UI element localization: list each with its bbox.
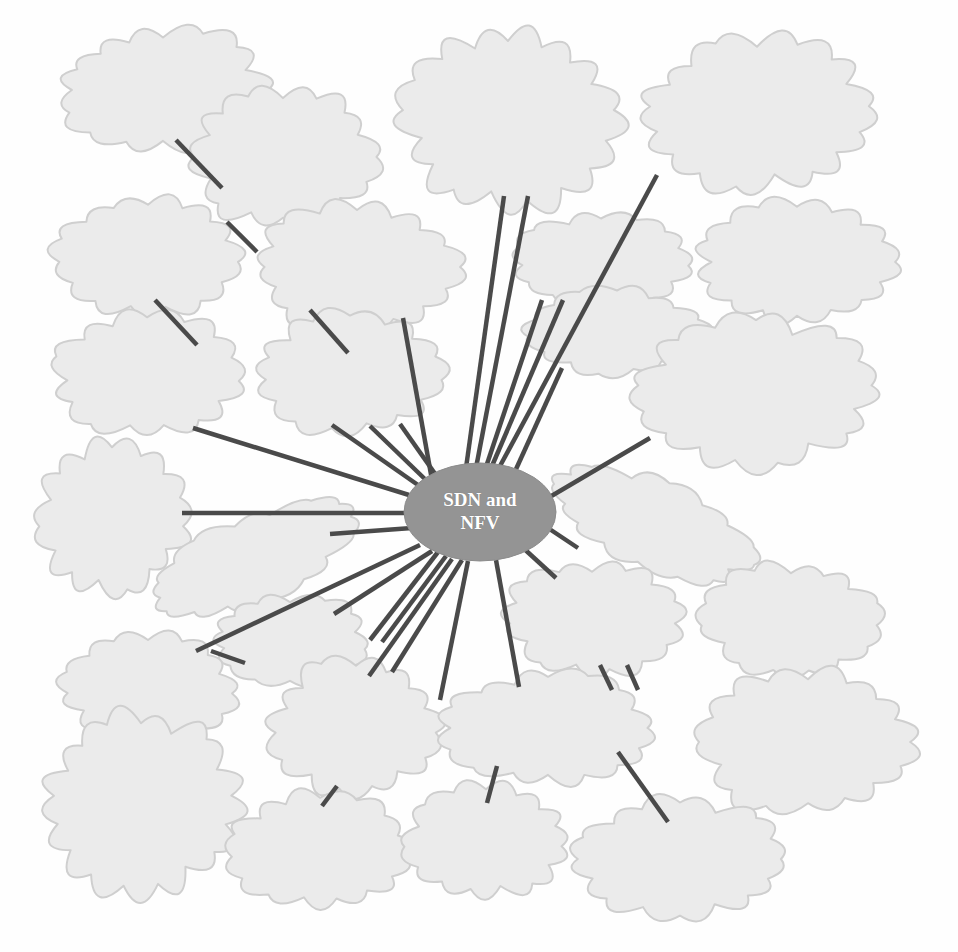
node-label-adaptability xyxy=(549,470,766,558)
node-label-scalability xyxy=(135,503,355,596)
node-labels-layer: SDN and NFV xyxy=(0,0,958,952)
hub-label: SDN and NFV xyxy=(404,489,556,535)
diagram-canvas: SDN and NFV xyxy=(0,0,958,952)
